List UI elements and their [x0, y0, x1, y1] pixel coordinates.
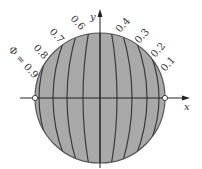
x-axis-label: x — [184, 101, 190, 112]
y-axis-label: y — [89, 11, 96, 22]
left-electrode-marker — [32, 95, 37, 100]
label-0.4: 0.4 — [113, 15, 132, 34]
label-0.1: 0.1 — [158, 54, 177, 73]
label-0.3: 0.3 — [132, 26, 151, 45]
y-axis-arrow-icon — [98, 9, 103, 17]
label-0.2: 0.2 — [148, 40, 167, 59]
right-electrode-marker — [162, 95, 167, 100]
x-axis-arrow-icon — [182, 96, 190, 101]
label-0.6: 0.6 — [69, 13, 88, 32]
diagram-canvas: x y Φ = 0.9 0.8 0.7 0.6 0.4 0.3 0.2 0.1 — [0, 0, 202, 169]
label-0.8: 0.8 — [32, 42, 51, 61]
label-0.7: 0.7 — [48, 26, 67, 45]
